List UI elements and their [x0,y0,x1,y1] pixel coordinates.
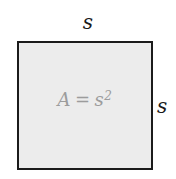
formula-exponent: 2 [104,89,112,103]
side-length-label-right: s [157,96,167,116]
area-formula: A=s2 [19,91,151,109]
formula-area-variable: A [58,89,72,110]
square-shape: A=s2 [17,41,153,170]
square-area-diagram: s A=s2 s [0,0,176,179]
formula-side-variable: s [95,89,105,110]
formula-equals-sign: = [75,89,91,110]
side-length-label-top: s [0,12,176,32]
